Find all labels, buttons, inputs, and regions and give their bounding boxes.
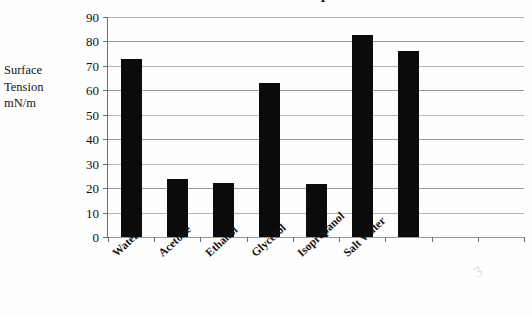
gridline bbox=[108, 90, 524, 91]
y-axis-tick-label: 70 bbox=[86, 59, 99, 72]
y-axis-tick-label: 60 bbox=[86, 84, 99, 97]
x-axis-tick bbox=[478, 237, 479, 242]
x-axis-tick bbox=[247, 237, 248, 242]
y-axis-title-line-1: Surface bbox=[4, 62, 78, 79]
y-axis-tick bbox=[103, 139, 108, 140]
chart-title: Surface Tension of Liquids bbox=[0, 0, 532, 3]
gridline bbox=[108, 115, 524, 116]
y-axis-title: Surface Tension mN/m bbox=[4, 62, 78, 112]
bar[interactable] bbox=[352, 35, 373, 237]
y-axis-tick bbox=[103, 115, 108, 116]
y-axis-tick bbox=[103, 213, 108, 214]
y-axis-tick bbox=[103, 17, 108, 18]
gridline bbox=[108, 66, 524, 67]
y-axis-line bbox=[107, 17, 108, 238]
bar[interactable] bbox=[398, 51, 419, 237]
y-axis-title-line-2: Tension bbox=[4, 79, 78, 96]
y-axis-tick-label: 50 bbox=[86, 108, 99, 121]
x-axis-tick bbox=[200, 237, 201, 242]
chart-title-clipped: Surface Tension of Liquids bbox=[0, 0, 532, 8]
gridline bbox=[108, 139, 524, 140]
x-axis-tick bbox=[108, 237, 109, 242]
y-axis-tick bbox=[103, 188, 108, 189]
y-axis-tick bbox=[103, 41, 108, 42]
plot-area: 9080706050403020100 bbox=[108, 17, 524, 237]
y-axis-tick-label: 20 bbox=[86, 182, 99, 195]
x-axis-tick bbox=[432, 237, 433, 242]
x-axis-tick bbox=[154, 237, 155, 242]
y-axis-tick bbox=[103, 66, 108, 67]
gridline bbox=[108, 164, 524, 165]
bar-chart-figure: Surface Tension of Liquids Surface Tensi… bbox=[0, 0, 532, 316]
x-axis-tick bbox=[293, 237, 294, 242]
y-axis-tick-label: 80 bbox=[86, 35, 99, 48]
y-axis-tick-label: 30 bbox=[86, 157, 99, 170]
y-axis-tick-label: 40 bbox=[86, 133, 99, 146]
y-axis-tick-label: 0 bbox=[93, 231, 100, 244]
gridline bbox=[108, 17, 524, 18]
y-axis-tick-label: 10 bbox=[86, 206, 99, 219]
x-axis-tick bbox=[524, 237, 525, 242]
y-axis-title-line-3: mN/m bbox=[4, 95, 78, 112]
y-axis-tick bbox=[103, 90, 108, 91]
bar[interactable] bbox=[259, 83, 280, 237]
x-axis-tick bbox=[339, 237, 340, 242]
y-axis-tick-label: 90 bbox=[86, 11, 99, 24]
y-axis-tick bbox=[103, 164, 108, 165]
gridline bbox=[108, 41, 524, 42]
scan-smudge-mark: 3 bbox=[470, 254, 503, 288]
x-axis-tick bbox=[385, 237, 386, 242]
bar[interactable] bbox=[121, 59, 142, 237]
